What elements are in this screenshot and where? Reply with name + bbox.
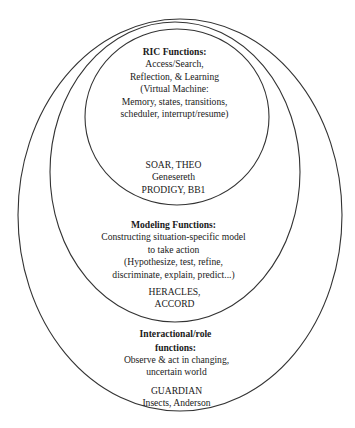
- interactional-desc-line: Observe & act in changing,: [0, 354, 354, 366]
- modeling-desc-line: to take action: [0, 244, 351, 256]
- modeling-example: ACCORD: [0, 298, 352, 310]
- interactional-examples-block: GUARDIAN Insects, Anderson: [0, 385, 354, 410]
- ric-heading: RIC Functions:: [0, 46, 352, 58]
- ric-desc-line: (Virtual Machine:: [0, 83, 352, 95]
- ric-functions-block: RIC Functions: Access/Search, Reflection…: [0, 46, 352, 120]
- interactional-heading: functions:: [0, 341, 353, 355]
- modeling-functions-block: Modeling Functions: Constructing situati…: [0, 219, 351, 281]
- interactional-functions-block: Interactional/role functions:: [0, 327, 353, 354]
- ric-example: SOAR, THEO: [0, 159, 351, 171]
- interactional-desc-block: Observe & act in changing, uncertain wor…: [0, 354, 354, 379]
- modeling-example: HERACLES,: [0, 286, 352, 298]
- modeling-examples-block: HERACLES, ACCORD: [0, 286, 352, 311]
- ric-desc-line: Memory, states, transitions,: [0, 96, 352, 108]
- modeling-heading: Modeling Functions:: [0, 219, 351, 231]
- modeling-desc-line: discriminate, explain, predict...): [0, 269, 351, 281]
- ric-desc-line: Reflection, & Learning: [0, 71, 352, 83]
- ric-desc-line: scheduler, interrupt/resume): [0, 108, 352, 120]
- interactional-example: Insects, Anderson: [0, 397, 354, 409]
- interactional-heading: Interactional/role: [0, 327, 353, 341]
- ric-example: Genesereth: [0, 171, 351, 183]
- ric-desc-line: Access/Search,: [0, 58, 352, 70]
- interactional-desc-line: uncertain world: [0, 366, 354, 378]
- modeling-desc-line: Constructing situation-specific model: [0, 231, 351, 243]
- ric-examples-block: SOAR, THEO Genesereth PRODIGY, BB1: [0, 159, 351, 196]
- interactional-example: GUARDIAN: [0, 385, 354, 397]
- modeling-desc-line: (Hypothesize, test, refine,: [0, 256, 351, 268]
- ric-example: PRODIGY, BB1: [0, 184, 351, 196]
